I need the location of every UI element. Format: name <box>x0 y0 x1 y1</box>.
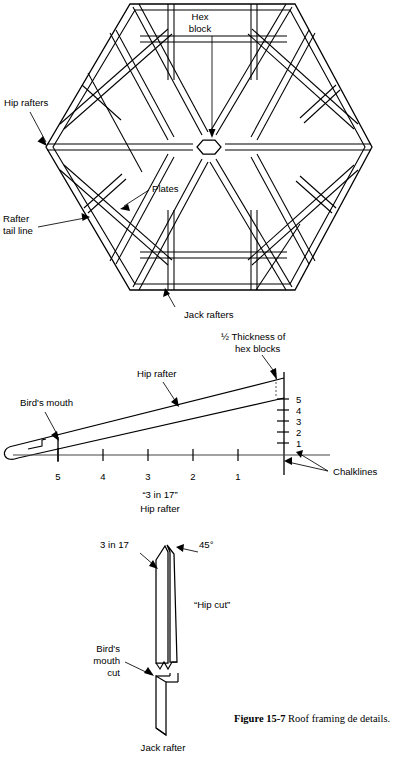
jack-bot-l1-a <box>110 154 168 261</box>
sector-bottom-group <box>110 154 315 290</box>
vertical-ticks-group <box>277 399 289 443</box>
label-birds-mouth-cut-line2: mouth <box>93 655 120 666</box>
jack-bot-r1-b <box>251 157 309 264</box>
hip-rafter-layout-panel: ½ Thickness of hex blocks Hip rafter Bir… <box>0 330 388 515</box>
plate-ur2-a <box>300 85 336 118</box>
vertical-number-4: 4 <box>296 405 301 416</box>
jack-top-r1-b <box>251 30 309 137</box>
label-jack-rafter: Jack rafter <box>141 742 187 753</box>
plate-ur-b <box>248 34 354 129</box>
hex-block <box>197 140 221 154</box>
jack-arrowheads-group <box>144 544 184 676</box>
leader-chalkline-1 <box>288 462 328 471</box>
figure-caption: Figure 15-7 Roof framing de details. <box>234 712 394 725</box>
baseline-number-2: 2 <box>190 471 195 482</box>
vertical-number-2: 2 <box>296 427 301 438</box>
hip-rafter-topright-a <box>216 7 292 135</box>
baseline-number-1: 1 <box>235 471 240 482</box>
plate-ul2-a <box>82 85 121 120</box>
label-plates: Plates <box>152 183 179 194</box>
label-hex-block-line2: block <box>189 23 212 34</box>
jack-rafter-upper-left-face <box>156 546 168 663</box>
hip-leaders-group <box>45 355 328 471</box>
label-3-in-17: 3 in 17 <box>100 539 129 550</box>
leader-hip-rafter <box>163 382 176 402</box>
vertical-number-3: 3 <box>296 416 301 427</box>
leader-plates <box>124 190 149 206</box>
plate-ur-a <box>252 29 358 124</box>
plate-lr2-b <box>296 181 332 213</box>
label-hip-cut: “Hip cut” <box>194 599 230 610</box>
label-hip-rafter: Hip rafter <box>137 368 177 379</box>
arrow-3-in-17 <box>149 560 158 569</box>
sector-upper-right-group <box>248 29 358 129</box>
baseline-number-4: 4 <box>100 471 105 482</box>
jack-top-l1-b <box>116 30 174 137</box>
leaders-group <box>30 36 212 307</box>
sector-lower-right-group <box>248 165 358 265</box>
baseline-number-5: 5 <box>55 471 60 482</box>
label-chalklines: Chalklines <box>333 466 377 477</box>
leader-arrowheads-group <box>38 129 216 297</box>
plate-ur2-b <box>304 90 340 123</box>
figure-number: Figure 15-7 <box>234 713 285 724</box>
hip-subcaption-line1: “3 in 17” <box>142 489 177 500</box>
hexagon-framing-plan-svg: Hex block Hip rafters Plates Rafter tail… <box>0 0 388 330</box>
jack-top-l2-a <box>88 73 142 172</box>
baseline-number-3: 3 <box>145 471 150 482</box>
hexagon-framing-plan-panel: Hex block Hip rafters Plates Rafter tail… <box>0 0 388 330</box>
plate-ll2-a <box>84 174 122 208</box>
arrow-half-thickness <box>270 368 277 380</box>
arrow-hex-block <box>209 129 216 138</box>
arrow-45deg <box>176 544 184 552</box>
jack-rafter-tail-bottom <box>156 728 166 735</box>
leader-chalkline-2 <box>300 454 328 471</box>
hip-rafter-bottomright-a <box>216 159 292 287</box>
label-45-degrees: 45° <box>199 539 214 550</box>
arrow-chalkline-1 <box>284 457 292 465</box>
label-rafter-tail-line1: Rafter <box>3 213 30 224</box>
label-hip-rafters: Hip rafters <box>4 97 48 108</box>
hip-rafter-bottomright-b <box>210 162 286 290</box>
jack-bot-l1-b <box>116 157 174 264</box>
plate-lr2-a <box>300 176 336 208</box>
jack-leaders-group <box>125 548 198 674</box>
vertical-number-1: 1 <box>296 438 301 449</box>
plate-ll2-b <box>88 179 126 213</box>
hip-rafter-tail-round <box>4 446 18 459</box>
label-rafter-tail-line2: tail line <box>3 225 33 236</box>
label-birds-mouth: Bird's mouth <box>20 397 73 408</box>
label-half-thickness-line2: hex blocks <box>235 343 281 354</box>
arrow-birds-mouth-cut <box>144 667 154 676</box>
label-jack-rafters: Jack rafters <box>184 309 234 320</box>
hip-rafter-topright-b <box>210 4 286 132</box>
jack-rafter-lower-left-face <box>156 676 166 735</box>
plate-lr-a <box>252 170 358 265</box>
figure-caption-text: Roof framing de details. <box>288 713 390 724</box>
label-birds-mouth-cut-line3: cut <box>107 667 120 678</box>
hip-rafter-layout-svg: ½ Thickness of hex blocks Hip rafter Bir… <box>0 330 388 515</box>
leader-rafter-tail <box>38 218 85 227</box>
vertical-number-5: 5 <box>296 394 301 405</box>
label-half-thickness-line1: ½ Thickness of <box>221 331 286 342</box>
jack-bot-r2-a <box>256 224 300 290</box>
jack-top-l1-a <box>110 33 168 140</box>
plate-lr-b <box>248 165 354 260</box>
label-hex-block-line1: Hex <box>191 11 208 22</box>
label-birds-mouth-cut-line1: Bird's <box>96 643 120 654</box>
arrow-chalkline-2 <box>296 450 303 458</box>
